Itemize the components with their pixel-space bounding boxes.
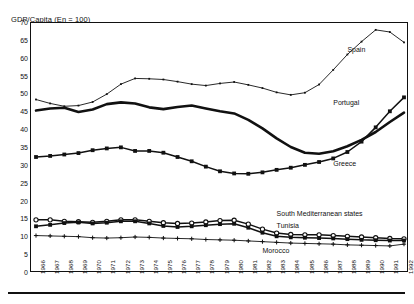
x-tick-label: 1977 [194, 260, 201, 274]
x-tick-label: 1966 [39, 260, 46, 274]
x-tick-label: 1974 [152, 260, 159, 274]
x-tick-label: 1976 [180, 260, 187, 274]
bottom-rule [8, 292, 405, 294]
x-tick-label: 1990 [378, 260, 385, 274]
x-tick-label: 1984 [293, 260, 300, 274]
series-label-tunisia: Tunisia [277, 222, 299, 229]
series-label-morocco: Morocco [262, 247, 289, 254]
x-tick-label: 1967 [53, 260, 60, 274]
x-tick-label: 1970 [95, 260, 102, 274]
series-label-portugal: Portugal [333, 99, 359, 106]
x-tick-label: 1989 [364, 260, 371, 274]
series-label-greece: Greece [333, 160, 356, 167]
x-tick-label: 1983 [279, 260, 286, 274]
x-tick-label: 1987 [336, 260, 343, 274]
x-tick-label: 1991 [392, 260, 399, 274]
x-tick-label: 1969 [81, 260, 88, 274]
x-tick-label: 1980 [237, 260, 244, 274]
x-tick-label: 1982 [265, 260, 272, 274]
x-tick-label: 1992 [407, 260, 414, 274]
series-label-spain: Spain [347, 46, 365, 53]
series-label-south-mediterranean-states: South Mediterranean states [277, 210, 363, 217]
x-tick-label: 1968 [67, 260, 74, 274]
x-tick-label: 1985 [308, 260, 315, 274]
x-tick-label: 1972 [124, 260, 131, 274]
x-tick-label: 1981 [251, 260, 258, 274]
x-tick-label: 1978 [208, 260, 215, 274]
x-tick-label: 1975 [166, 260, 173, 274]
x-tick-label: 1979 [223, 260, 230, 274]
x-tick-label: 1986 [322, 260, 329, 274]
x-tick-label: 1988 [350, 260, 357, 274]
x-tick-label: 1973 [138, 260, 145, 274]
x-tick-label: 1971 [109, 260, 116, 274]
